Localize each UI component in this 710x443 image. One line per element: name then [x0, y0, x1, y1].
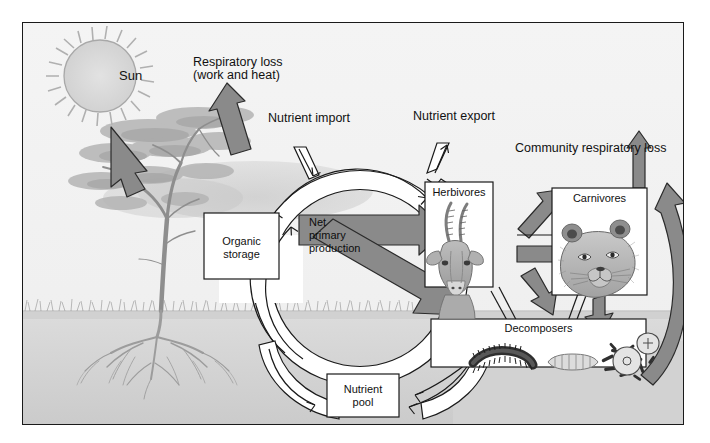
grub-larva-icon [548, 354, 598, 370]
net-primary-production-label: Netprimaryproduction [309, 216, 360, 255]
respiratory-loss-label: Respiratory loss(work and heat) [193, 56, 283, 81]
community-respiratory-loss-label: Community respiratory loss [515, 142, 666, 155]
nutrient-export-label: Nutrient export [413, 110, 495, 123]
decomposers-label: Decomposers [431, 322, 646, 335]
respiratory-loss-line2: (work and heat) [193, 68, 280, 82]
organic-storage-line1: Organic [222, 235, 261, 247]
nutrient-pool-line2: pool [353, 396, 374, 408]
ecosystem-diagram-figure: Sun Respiratory loss(work and heat) Nutr… [0, 0, 710, 443]
sun-label: Sun [119, 70, 142, 83]
nutrient-pool-label: Nutrientpool [327, 383, 399, 408]
carnivores-label: Carnivores [552, 192, 647, 205]
nutrient-pool-line1: Nutrient [344, 383, 383, 395]
npp-line2: primary [309, 229, 346, 241]
herbivores-label: Herbivores [425, 186, 493, 199]
organic-storage-label: Organicstorage [204, 235, 279, 260]
npp-line1: Net [309, 216, 326, 228]
nutrient-import-label: Nutrient import [268, 112, 350, 125]
organic-storage-line2: storage [223, 248, 260, 260]
npp-line3: production [309, 242, 360, 254]
diagram-frame: Sun Respiratory loss(work and heat) Nutr… [22, 22, 684, 425]
